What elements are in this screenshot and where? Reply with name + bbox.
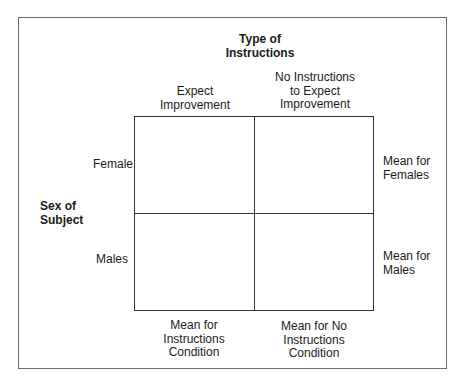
column-header-no-instructions: No Instructions to Expect Improvement <box>255 71 375 112</box>
column-factor-title: Type of Instructions <box>200 33 320 60</box>
row-divider <box>135 213 373 214</box>
column-header-expect-improvement: Expect Improvement <box>135 85 255 112</box>
row-mean-males: Mean for Males <box>383 250 453 277</box>
row-mean-females: Mean for Females <box>383 155 453 182</box>
row-header-males: Males <box>85 253 128 267</box>
column-mean-instructions: Mean for Instructions Condition <box>134 319 254 360</box>
two-by-two-grid <box>134 116 374 311</box>
column-mean-no-instructions: Mean for No Instructions Condition <box>254 320 374 361</box>
row-factor-title: Sex of Subject <box>40 200 120 227</box>
row-header-female: Female <box>85 158 133 172</box>
